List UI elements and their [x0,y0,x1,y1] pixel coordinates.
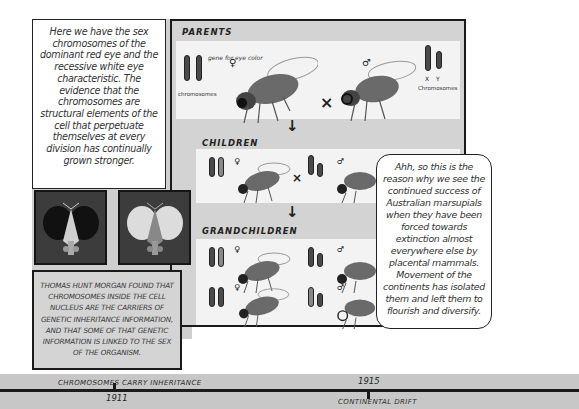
label-children: Children [202,138,258,148]
chromosome-icon [218,287,224,307]
chromosome-x-icon [425,45,431,71]
speech-bubble: Ahh, so this is the reason why we see th… [376,154,492,329]
chromosome-icon [317,253,323,267]
chromosome-icon [209,287,215,307]
red-eye-image [34,190,107,265]
chromosome-icon [196,55,202,81]
caption-morgan: Thomas Hunt Morgan found that chromosome… [32,270,182,370]
chromosome-y-icon [436,51,442,69]
chromosome-icon [317,293,323,307]
timeline-event-label: Chromosomes carry inheritance [58,379,202,387]
label-parents: Parents [182,27,232,37]
chromosomes-label-right: Chromosomes [418,85,457,91]
fly-male-child-icon [332,161,382,203]
chromosome-icon [308,247,314,267]
fly-female-child-icon [232,157,292,203]
fly-female-icon [228,51,318,123]
arrow-down-icon: ↓ [286,203,299,221]
chromosome-icon [209,157,215,177]
fly-grandchild-icon [232,283,292,327]
timeline-year: 1915 [358,376,380,386]
fly-head-white-eyes-icon [125,197,185,259]
timeline-year: 1911 [106,393,128,403]
chromosome-icon [308,287,314,307]
label-grandchildren: Grandchildren [202,226,298,236]
caption-sex-chromosomes: Here we have the sex chromosomes of the … [32,19,166,189]
timeline-axis [0,389,579,392]
timeline-event-label: Continental drift [338,398,417,406]
x-label: X [425,75,429,82]
white-eye-image [118,190,191,265]
cross-symbol-icon: × [320,93,333,112]
chromosome-icon [209,247,215,267]
fly-head-red-eyes-icon [41,197,101,259]
chromosome-icon [218,157,224,177]
fly-male-icon [337,53,417,121]
fly-grandchild-icon [332,289,382,329]
chromosome-icon [184,55,190,81]
chromosome-icon [317,163,323,177]
parents-area [176,41,460,119]
chromosome-icon [218,247,224,267]
chromosomes-label-left: chromosomes [178,91,217,97]
chromosome-icon [308,155,314,175]
cross-symbol-icon: × [292,171,302,185]
y-label: Y [436,75,440,82]
arrow-down-icon: ↓ [286,117,299,135]
